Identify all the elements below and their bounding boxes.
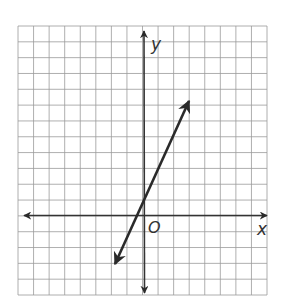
y-axis xyxy=(144,31,145,293)
grid xyxy=(18,26,267,295)
y-axis-label: y xyxy=(150,34,162,54)
origin-label: O xyxy=(148,218,161,237)
graph-line xyxy=(115,101,189,264)
x-axis-label: x xyxy=(256,219,268,239)
coordinate-plane: y x O xyxy=(0,0,283,304)
